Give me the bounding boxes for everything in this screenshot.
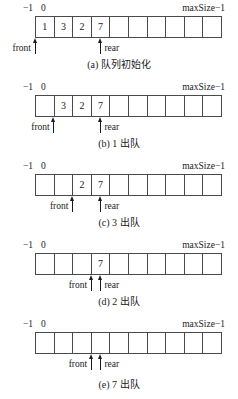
queue-array: 7: [35, 253, 222, 275]
front-pointer-label: front: [13, 42, 31, 54]
arrow-shaft: [100, 42, 101, 54]
queue-cell: [203, 96, 221, 116]
queue-cell: [166, 333, 185, 353]
queue-state-panel-e: −10maxSize−1frontrear(e) 7 出队: [0, 316, 238, 399]
queue-cell: [73, 254, 92, 274]
index-label-max: maxSize−1: [182, 239, 225, 252]
queue-array: [35, 332, 222, 354]
queue-cell: 3: [55, 96, 74, 116]
queue-cell: [203, 333, 221, 353]
panel-caption-c: (c) 3 出队: [0, 216, 238, 230]
queue-cell: [185, 96, 204, 116]
queue-cell: [148, 175, 167, 195]
queue-cell: 2: [73, 175, 92, 195]
queue-cell: [110, 175, 129, 195]
queue-cell: [129, 96, 148, 116]
queue-cell: [36, 96, 55, 116]
rear-pointer-label: rear: [104, 358, 119, 370]
arrow-shaft: [91, 358, 92, 370]
queue-cell: [203, 175, 221, 195]
rear-pointer-label: rear: [104, 121, 119, 133]
queue-cell: [36, 333, 55, 353]
queue-cell: [185, 333, 204, 353]
queue-cell: [36, 254, 55, 274]
arrow-shaft: [72, 200, 73, 212]
queue-cell: [110, 254, 129, 274]
panel-caption-a: (a) 队列初始化: [0, 58, 238, 72]
panel-caption-e: (e) 7 出队: [0, 378, 238, 392]
queue-cell: [166, 254, 185, 274]
queue-cell: [148, 17, 167, 37]
rear-pointer-label: rear: [104, 42, 119, 54]
queue-cell: [55, 175, 74, 195]
pointer-row: frontrear: [0, 275, 238, 295]
queue-cell: [148, 333, 167, 353]
panel-caption-d: (d) 2 出队: [0, 295, 238, 309]
arrow-shaft: [35, 42, 36, 54]
queue-cell: [166, 17, 185, 37]
queue-array: 27: [35, 174, 222, 196]
arrow-shaft: [100, 358, 101, 370]
front-pointer-label: front: [50, 200, 68, 212]
arrow-shaft: [53, 121, 54, 133]
rear-pointer-label: rear: [104, 200, 119, 212]
index-label-zero: 0: [41, 239, 46, 252]
queue-cell: [55, 254, 74, 274]
queue-cell: 1: [36, 17, 55, 37]
pointer-row: frontrear: [0, 38, 238, 58]
queue-cell: [129, 254, 148, 274]
queue-state-panel-b: −10maxSize−1327frontrear(b) 1 出队: [0, 79, 238, 158]
queue-state-panel-d: −10maxSize−17frontrear(d) 2 出队: [0, 237, 238, 316]
queue-cell: 7: [92, 175, 111, 195]
queue-cell: [92, 333, 111, 353]
index-label-row: −10maxSize−1: [0, 2, 238, 15]
front-pointer-label: front: [69, 358, 87, 370]
queue-cell: [203, 17, 221, 37]
queue-cell: [110, 17, 129, 37]
index-label-zero: 0: [41, 2, 46, 15]
queue-cell: [73, 333, 92, 353]
queue-cell: 7: [92, 96, 111, 116]
index-label-minus-one: −1: [23, 318, 33, 331]
queue-cell: [148, 96, 167, 116]
index-label-row: −10maxSize−1: [0, 239, 238, 252]
queue-cell: [36, 175, 55, 195]
queue-state-panel-a: −10maxSize−11327frontrear(a) 队列初始化: [0, 0, 238, 79]
queue-cell: [185, 175, 204, 195]
index-label-max: maxSize−1: [182, 2, 225, 15]
queue-cell: 7: [92, 17, 111, 37]
arrow-shaft: [100, 121, 101, 133]
queue-cell: [55, 333, 74, 353]
index-label-minus-one: −1: [23, 160, 33, 173]
arrow-shaft: [100, 279, 101, 291]
pointer-row: frontrear: [0, 117, 238, 137]
queue-cell: 7: [92, 254, 111, 274]
queue-cell: [185, 254, 204, 274]
queue-array: 327: [35, 95, 222, 117]
queue-cell: [185, 17, 204, 37]
queue-cell: 2: [73, 17, 92, 37]
arrow-shaft: [91, 279, 92, 291]
arrow-shaft: [100, 200, 101, 212]
queue-dequeue-sequence-figure: −10maxSize−11327frontrear(a) 队列初始化−10max…: [0, 0, 238, 399]
index-label-row: −10maxSize−1: [0, 160, 238, 173]
queue-array: 1327: [35, 16, 222, 38]
queue-cell: [110, 333, 129, 353]
panel-caption-b: (b) 1 出队: [0, 137, 238, 151]
queue-cell: 2: [73, 96, 92, 116]
queue-cell: [203, 254, 221, 274]
queue-cell: [129, 175, 148, 195]
queue-cell: [166, 96, 185, 116]
rear-pointer-label: rear: [104, 279, 119, 291]
queue-cell: [129, 17, 148, 37]
index-label-row: −10maxSize−1: [0, 318, 238, 331]
pointer-row: frontrear: [0, 354, 238, 374]
index-label-zero: 0: [41, 81, 46, 94]
pointer-row: frontrear: [0, 196, 238, 216]
queue-state-panel-c: −10maxSize−127frontrear(c) 3 出队: [0, 158, 238, 237]
front-pointer-label: front: [69, 279, 87, 291]
index-label-minus-one: −1: [23, 2, 33, 15]
index-label-minus-one: −1: [23, 81, 33, 94]
index-label-minus-one: −1: [23, 239, 33, 252]
queue-cell: [129, 333, 148, 353]
